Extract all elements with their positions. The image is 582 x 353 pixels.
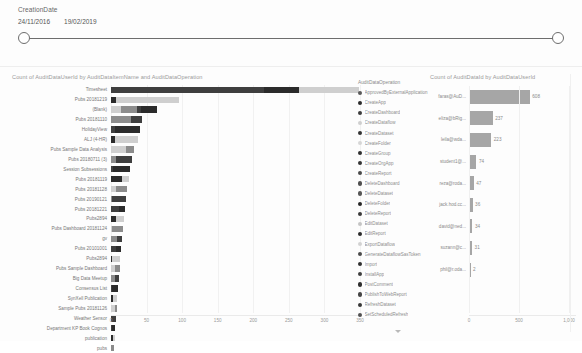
bar[interactable] bbox=[469, 111, 493, 125]
chart-bar-row[interactable]: Pubs Sample Data Analysis bbox=[12, 145, 364, 155]
chart-bar-row[interactable]: SynXell Publication bbox=[12, 294, 364, 304]
bar[interactable] bbox=[469, 155, 476, 169]
legend-item[interactable]: CreateGroup bbox=[358, 148, 428, 158]
chart-bar-row[interactable]: Pubs Sample Dashboard bbox=[12, 264, 364, 274]
stacked-bar[interactable] bbox=[111, 146, 134, 152]
chart-bar-row[interactable]: gv bbox=[12, 234, 364, 244]
legend-item[interactable]: CreateApp bbox=[358, 98, 428, 108]
right-bar-chart[interactable]: Count of AuditDataId by AuditDataUserId … bbox=[430, 74, 578, 332]
legend-item[interactable]: ExportDataflow bbox=[358, 239, 428, 249]
chart-bar-row[interactable]: phil@r.oda...2 bbox=[430, 259, 578, 281]
bar[interactable] bbox=[469, 176, 474, 190]
stacked-bar[interactable] bbox=[111, 106, 157, 112]
stacked-bar[interactable] bbox=[111, 136, 138, 142]
legend-item[interactable]: DeleteDataset bbox=[358, 189, 428, 199]
chart-bar-row[interactable]: HolidayView bbox=[12, 125, 364, 135]
slicer-start-date[interactable]: 24/11/2016 bbox=[18, 18, 50, 25]
creation-date-slicer[interactable]: CreationDate 24/11/2016 19/02/2019 bbox=[18, 6, 564, 58]
legend-item[interactable]: CreateDashboard bbox=[358, 108, 428, 118]
legend-item[interactable]: PublishToWebReport bbox=[358, 289, 428, 299]
chart-bar-row[interactable]: Pubs2894 bbox=[12, 254, 364, 264]
stacked-bar[interactable] bbox=[111, 345, 114, 351]
bar[interactable] bbox=[469, 198, 473, 212]
chart-bar-row[interactable]: Pubs 20190121 bbox=[12, 194, 364, 204]
bar[interactable] bbox=[469, 219, 472, 233]
stacked-bar[interactable] bbox=[111, 335, 115, 341]
chart-bar-row[interactable]: faras@AuD...608 bbox=[430, 86, 578, 108]
bar[interactable] bbox=[469, 241, 472, 255]
chart-bar-row[interactable]: Pubs 20180711 (3) bbox=[12, 155, 364, 165]
stacked-bar[interactable] bbox=[111, 196, 126, 202]
stacked-bar[interactable] bbox=[111, 275, 119, 281]
chart-bar-row[interactable]: Pubs 20181128 bbox=[12, 184, 364, 194]
chart-bar-row[interactable]: jack.hod.cc...36 bbox=[430, 194, 578, 216]
stacked-bar[interactable] bbox=[111, 285, 118, 291]
legend-item[interactable]: CreateDataset bbox=[358, 128, 428, 138]
legend-item[interactable]: CreateFolder bbox=[358, 138, 428, 148]
chart-bar-row[interactable]: Pubs 20181219 bbox=[12, 95, 364, 105]
chart-bar-row[interactable]: Pubs 20181221 bbox=[12, 204, 364, 214]
chart-bar-row[interactable]: Big Data Meetup bbox=[12, 274, 364, 284]
stacked-bar[interactable] bbox=[111, 166, 130, 172]
legend-item[interactable]: InstallApp bbox=[358, 269, 428, 279]
stacked-bar[interactable] bbox=[111, 236, 122, 242]
stacked-bar[interactable] bbox=[111, 216, 124, 222]
stacked-bar[interactable] bbox=[111, 186, 127, 192]
legend-scroll-down-button[interactable] bbox=[395, 330, 401, 334]
stacked-bar[interactable] bbox=[111, 305, 117, 311]
legend-item[interactable]: PostComment bbox=[358, 279, 428, 289]
stacked-bar[interactable] bbox=[111, 265, 120, 271]
slider-handle-left[interactable] bbox=[18, 32, 30, 44]
chart-bar-row[interactable]: Pubs 20181110 bbox=[12, 115, 364, 125]
chart-bar-row[interactable]: pubs bbox=[12, 343, 364, 353]
chart-bar-row[interactable]: Timesheet bbox=[12, 85, 364, 95]
legend-item[interactable]: DeleteReport bbox=[358, 209, 428, 219]
chart-bar-row[interactable]: student1@...74 bbox=[430, 151, 578, 173]
stacked-bar[interactable] bbox=[111, 226, 123, 232]
legend-item[interactable]: CreateOrgApp bbox=[358, 158, 428, 168]
stacked-bar[interactable] bbox=[111, 206, 125, 212]
stacked-bar[interactable] bbox=[111, 156, 132, 162]
slicer-slider[interactable] bbox=[18, 32, 564, 46]
legend-item[interactable]: CreateDataflow bbox=[358, 118, 428, 128]
chart-bar-row[interactable]: Session Subsessions bbox=[12, 165, 364, 175]
slider-handle-right[interactable] bbox=[552, 32, 564, 44]
stacked-bar[interactable] bbox=[111, 126, 140, 132]
stacked-bar[interactable] bbox=[111, 176, 129, 182]
legend-item[interactable]: Import bbox=[358, 259, 428, 269]
left-bar-chart[interactable]: Count of AuditDataUserId by AuditDataIte… bbox=[12, 74, 364, 332]
legend-item[interactable]: CreateReport bbox=[358, 168, 428, 178]
chart-bar-row[interactable]: eliza@bRig...237 bbox=[430, 108, 578, 130]
legend-item[interactable]: ApprovedByExternalApplication bbox=[358, 88, 428, 98]
stacked-bar[interactable] bbox=[111, 246, 121, 252]
stacked-bar[interactable] bbox=[111, 256, 120, 262]
legend-item[interactable]: RefreshDataset bbox=[358, 300, 428, 310]
chart-bar-row[interactable]: Pubs 20181119 bbox=[12, 174, 364, 184]
chart-bar-row[interactable]: (Blank) bbox=[12, 105, 364, 115]
legend-item[interactable]: DeleteDashboard bbox=[358, 178, 428, 188]
chart-bar-row[interactable]: publication bbox=[12, 333, 364, 343]
chart-bar-row[interactable]: suzann@c...31 bbox=[430, 237, 578, 259]
legend-item[interactable]: DeleteFolder bbox=[358, 199, 428, 209]
chart-bar-row[interactable]: Sample Pubs 20181126 bbox=[12, 304, 364, 314]
stacked-bar[interactable] bbox=[111, 87, 359, 93]
chart-bar-row[interactable]: david@ned...34 bbox=[430, 216, 578, 238]
chart-bar-row[interactable]: Consensus List bbox=[12, 284, 364, 294]
stacked-bar[interactable] bbox=[111, 116, 142, 122]
legend-item[interactable]: SetScheduledRefresh bbox=[358, 310, 428, 320]
stacked-bar[interactable] bbox=[111, 295, 117, 301]
chart-bar-row[interactable]: Pubs2894 bbox=[12, 214, 364, 224]
legend-item[interactable]: EditReport bbox=[358, 229, 428, 239]
bar[interactable] bbox=[469, 90, 530, 104]
chart-bar-row[interactable]: Pubs 20101001 bbox=[12, 244, 364, 254]
chart-bar-row[interactable]: Pubs Dashboard 20181124 bbox=[12, 224, 364, 234]
legend-item[interactable]: GenerateDataflowSasToken bbox=[358, 249, 428, 259]
slicer-end-date[interactable]: 19/02/2019 bbox=[64, 18, 97, 25]
chart-bar-row[interactable]: reza@roda...47 bbox=[430, 172, 578, 194]
bar[interactable] bbox=[469, 263, 471, 277]
chart-bar-row[interactable]: leila@wda...223 bbox=[430, 129, 578, 151]
bar[interactable] bbox=[469, 133, 491, 147]
legend-item[interactable]: EditDataset bbox=[358, 219, 428, 229]
stacked-bar[interactable] bbox=[111, 97, 179, 103]
chart-legend[interactable]: AuditDataOperation ApprovedByExternalApp… bbox=[358, 80, 428, 320]
